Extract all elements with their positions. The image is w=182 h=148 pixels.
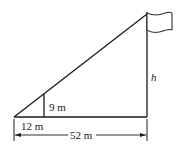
hypotenuse-line	[14, 14, 147, 117]
small-base-label: 12 m	[21, 120, 44, 132]
pole-height-label: h	[151, 71, 157, 83]
total-base-label: 52 m	[70, 129, 93, 141]
arrowhead-left-icon	[15, 133, 21, 137]
flag-icon	[147, 12, 172, 32]
small-height-label: 9 m	[49, 101, 66, 113]
arrowhead-right-icon	[140, 133, 146, 137]
flagpole-diagram: 9 m 12 m 52 m h	[0, 0, 182, 148]
